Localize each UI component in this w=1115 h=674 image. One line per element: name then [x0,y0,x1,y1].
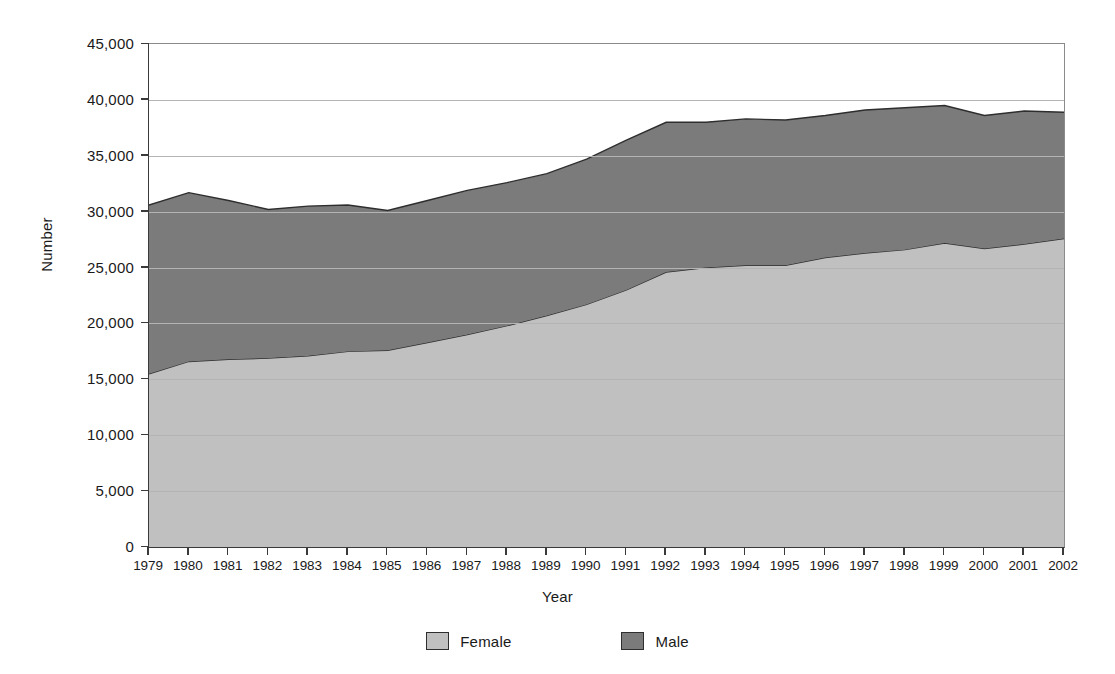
x-axis-label: 1994 [730,558,760,573]
x-axis-label: 1982 [253,558,283,573]
x-axis-label: 1981 [213,558,243,573]
x-axis-label: 1984 [332,558,362,573]
x-axis-label: 1989 [531,558,561,573]
x-axis-label: 1992 [650,558,680,573]
x-axis-tick [664,547,666,555]
x-axis-tick [585,547,587,555]
x-axis-label: 1987 [451,558,481,573]
y-axis-tick [141,546,149,548]
y-axis-label: 35,000 [87,146,134,163]
y-axis-tick [141,434,149,436]
y-axis-label: 15,000 [87,370,134,387]
y-axis-tick [141,43,149,45]
x-axis-label: 1988 [491,558,521,573]
x-axis-label: 1991 [611,558,641,573]
y-axis-label: 20,000 [87,314,134,331]
x-axis-tick-labels: 1979198019811982198319841985198619871988… [148,558,1063,582]
x-axis-tick [147,547,149,555]
gridline [149,212,1064,213]
y-axis-label: 25,000 [87,258,134,275]
legend-item-male: Male [621,632,688,650]
y-axis-label: 45,000 [87,35,134,52]
x-axis-tick [625,547,627,555]
x-axis-tick [824,547,826,555]
gridline [149,268,1064,269]
y-axis-label: 0 [125,538,134,555]
area-series-svg [149,44,1064,547]
x-axis-label: 1997 [849,558,879,573]
y-axis-label: 10,000 [87,426,134,443]
x-axis-label: 1990 [571,558,601,573]
x-axis-tick [704,547,706,555]
x-axis-tick [505,547,507,555]
x-axis-tick [1022,547,1024,555]
x-axis-label: 1993 [690,558,720,573]
x-axis-label: 1998 [889,558,919,573]
x-axis-title: Year [0,588,1115,605]
x-axis-tick [983,547,985,555]
x-axis-tick [545,547,547,555]
x-axis-tick [306,547,308,555]
y-axis-tick [141,490,149,492]
plot-area [148,43,1065,548]
x-axis-tick [346,547,348,555]
x-axis-label: 1986 [412,558,442,573]
x-axis-tick [784,547,786,555]
x-axis-label: 1995 [770,558,800,573]
x-axis-label: 2001 [1008,558,1038,573]
x-axis-label: 1980 [173,558,203,573]
y-axis-tick [141,98,149,100]
x-axis-label: 1979 [133,558,163,573]
x-axis-label: 1999 [929,558,959,573]
y-axis-label: 30,000 [87,202,134,219]
x-axis-tick [863,547,865,555]
x-axis-ticks [148,547,1063,556]
x-axis-label: 1983 [292,558,322,573]
gridline [149,435,1064,436]
x-axis-tick [943,547,945,555]
x-axis-tick [744,547,746,555]
y-axis-label: 40,000 [87,90,134,107]
y-axis-tick [141,322,149,324]
x-axis-tick [187,547,189,555]
legend-swatch-male [621,632,644,650]
y-axis-tick [141,378,149,380]
y-axis-label: 5,000 [95,482,134,499]
y-axis-tick [141,154,149,156]
legend-swatch-female [426,632,449,650]
gridline [149,156,1064,157]
y-axis-tick-labels: 45,00040,00035,00030,00025,00020,00015,0… [42,0,134,674]
x-axis-tick [1062,547,1064,555]
x-axis-label: 2000 [969,558,999,573]
x-axis-tick [386,547,388,555]
chart-legend: Female Male [0,632,1115,650]
legend-label-female: Female [460,633,511,650]
gridline [149,100,1064,101]
y-axis-tick [141,266,149,268]
gridline [149,379,1064,380]
gridline [149,491,1064,492]
gridline [149,323,1064,324]
x-axis-tick [903,547,905,555]
x-axis-tick [227,547,229,555]
x-axis-label: 2002 [1048,558,1078,573]
x-axis-label: 1996 [809,558,839,573]
x-axis-tick [426,547,428,555]
x-axis-label: 1985 [372,558,402,573]
x-axis-tick [267,547,269,555]
legend-label-male: Male [655,633,688,650]
y-axis-tick [141,210,149,212]
legend-item-female: Female [426,632,511,650]
x-axis-tick [466,547,468,555]
stacked-area-chart: Number 45,00040,00035,00030,00025,00020,… [0,0,1115,674]
